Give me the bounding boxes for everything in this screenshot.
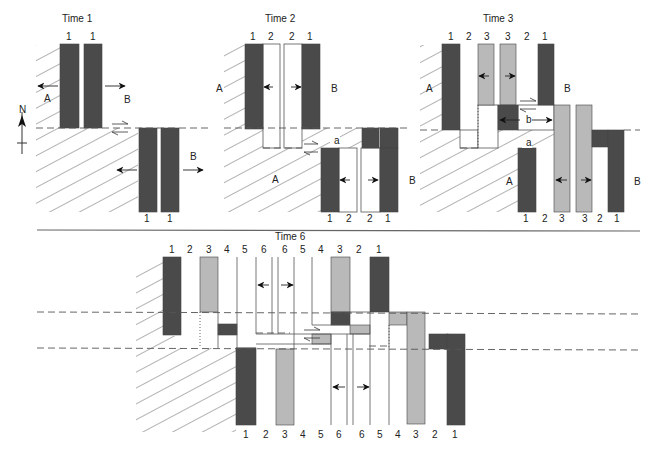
dark-magnetic-stripe	[498, 105, 518, 130]
dark-magnetic-stripe	[331, 312, 350, 325]
new-crust-block	[460, 130, 478, 148]
dark-magnetic-stripe	[236, 348, 256, 425]
stripe-number-bottom: 2	[597, 213, 603, 224]
stripe-number-bottom: 1	[243, 429, 249, 440]
stripe-number-bottom: 1	[523, 213, 529, 224]
dark-magnetic-stripe	[302, 44, 320, 129]
stripe-number-bottom: 1	[385, 213, 391, 224]
new-crust-block	[284, 44, 302, 148]
dark-magnetic-stripe	[518, 148, 536, 212]
light-magnetic-stripe	[331, 257, 350, 313]
new-crust-block	[478, 105, 498, 148]
stripe-number-bottom: 6	[359, 429, 365, 440]
light-magnetic-stripe	[554, 105, 570, 212]
panel-title-time6: Time 6	[275, 231, 306, 242]
transform-motion-half-arrow-icon	[520, 98, 536, 101]
stripe-number-top: 1	[90, 31, 96, 42]
plate-label-B: B	[564, 83, 571, 94]
ridge-transform-diagram: Time 11111ABBTime 212211221ABAaBTime 312…	[0, 0, 665, 468]
north-arrow-icon: N	[17, 104, 27, 154]
dark-magnetic-stripe	[321, 148, 339, 212]
dark-magnetic-stripe	[538, 44, 554, 105]
stripe-number-bottom: 4	[300, 429, 306, 440]
plate-label-a: a	[526, 137, 532, 148]
stripe-number-bottom: 1	[452, 429, 458, 440]
panel-title-time2: Time 2	[265, 13, 296, 24]
dark-magnetic-stripe	[139, 128, 157, 212]
plate-label-A: A	[426, 83, 433, 94]
dark-magnetic-stripe	[161, 128, 179, 212]
panel-divider	[37, 230, 640, 231]
light-magnetic-stripe	[312, 334, 331, 344]
plate-label-b: b	[526, 114, 532, 125]
stripe-number-top: 6	[282, 244, 288, 255]
dark-magnetic-stripe	[218, 324, 237, 335]
stripe-number-top: 2	[524, 31, 530, 42]
light-magnetic-stripe	[200, 257, 218, 312]
stripe-number-top: 5	[300, 244, 306, 255]
plate-label-B: B	[331, 83, 338, 94]
stripe-number-bottom: 3	[559, 213, 565, 224]
stripe-number-bottom: 3	[582, 213, 588, 224]
dark-magnetic-stripe	[362, 128, 379, 148]
stripe-number-top: 3	[505, 31, 511, 42]
stripe-number-top: 3	[484, 31, 490, 42]
stripe-number-bottom: 1	[614, 213, 620, 224]
plate-hatch-region	[136, 257, 236, 432]
stripe-number-top: 2	[356, 244, 362, 255]
dark-magnetic-stripe	[84, 44, 102, 128]
stripe-number-bottom: 1	[144, 213, 150, 224]
stripe-number-bottom: 3	[282, 429, 288, 440]
stripe-number-bottom: 1	[327, 213, 333, 224]
plate-label-B: B	[190, 151, 197, 162]
light-magnetic-stripe	[500, 44, 516, 105]
stripe-number-top: 1	[542, 31, 548, 42]
plate-label-B: B	[124, 94, 131, 105]
light-magnetic-stripe	[276, 349, 294, 425]
stripe-number-bottom: 5	[377, 429, 383, 440]
light-magnetic-stripe	[389, 312, 407, 325]
transform-motion-half-arrow-icon	[112, 121, 128, 124]
dark-magnetic-stripe	[442, 44, 460, 130]
stripe-number-top: 1	[66, 31, 72, 42]
new-crust-block	[263, 44, 280, 148]
dark-magnetic-stripe	[60, 44, 79, 128]
plate-label-A: A	[506, 176, 513, 187]
light-magnetic-stripe	[350, 325, 370, 334]
stripe-number-top: 1	[448, 31, 454, 42]
stripe-number-top: 4	[224, 244, 230, 255]
light-magnetic-stripe	[407, 312, 425, 424]
stripe-number-bottom: 5	[318, 429, 324, 440]
stripe-number-top: 4	[318, 244, 324, 255]
stripe-number-bottom: 4	[395, 429, 401, 440]
plate-label-B: B	[634, 176, 641, 187]
stripe-number-top: 6	[261, 244, 267, 255]
panel-title-time3: Time 3	[483, 13, 514, 24]
dark-magnetic-stripe	[608, 130, 624, 212]
stripe-number-top: 1	[250, 31, 256, 42]
panel-title-time1: Time 1	[62, 13, 93, 24]
plate-label-A: A	[44, 93, 51, 104]
stripe-number-bottom: 1	[167, 213, 173, 224]
plate-label-B: B	[409, 175, 416, 186]
plate-label-A: A	[216, 83, 223, 94]
stripe-number-top: 5	[242, 244, 248, 255]
dark-magnetic-stripe	[370, 257, 389, 312]
stripe-number-bottom: 2	[346, 213, 352, 224]
dark-magnetic-stripe	[163, 257, 181, 335]
stripe-number-bottom: 6	[336, 429, 342, 440]
dark-magnetic-stripe	[447, 334, 465, 425]
transform-motion-half-arrow-icon	[304, 327, 320, 330]
dark-magnetic-stripe	[380, 148, 398, 212]
stripe-number-top: 1	[169, 244, 175, 255]
stripe-number-top: 3	[337, 244, 343, 255]
stripe-number-bottom: 2	[367, 213, 373, 224]
stripe-number-top: 2	[268, 31, 274, 42]
stripe-number-top: 2	[187, 244, 193, 255]
dark-magnetic-stripe	[592, 130, 608, 147]
dark-magnetic-stripe	[245, 44, 263, 129]
fracture-zone-dashed-line	[37, 348, 642, 350]
plate-label-A: A	[272, 174, 279, 185]
light-magnetic-stripe	[478, 44, 494, 105]
figure-caption	[60, 460, 620, 468]
